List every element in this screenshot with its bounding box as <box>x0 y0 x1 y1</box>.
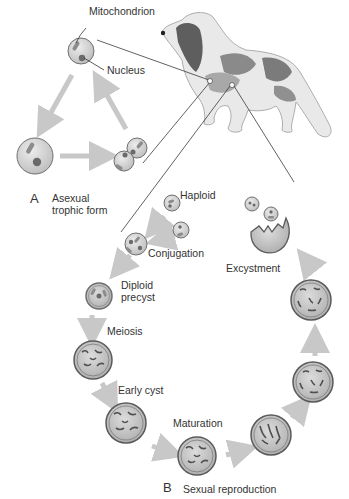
sample-site-marker <box>230 83 235 88</box>
excystment-shell <box>245 197 289 253</box>
panel-a-letter: A <box>30 191 39 206</box>
label-meiosis: Meiosis <box>107 325 143 337</box>
panel-a-title-line2: trophic form <box>52 204 107 216</box>
early-cyst <box>106 403 146 443</box>
asexual-arrows <box>44 75 126 156</box>
dividing-cells <box>114 138 147 171</box>
sample-site-marker <box>208 79 213 84</box>
early-excystment-cyst <box>291 280 331 320</box>
panel-b-letter: B <box>163 480 172 495</box>
enlarged-cell <box>17 138 53 174</box>
label-maturation: Maturation <box>173 417 223 429</box>
dog-illustration <box>161 13 331 137</box>
maturation-cyst <box>178 437 216 475</box>
conjugation-cell <box>125 233 147 255</box>
trophozoite-cell <box>68 38 94 64</box>
label-nucleus: Nucleus <box>107 64 145 76</box>
diploid-precyst <box>86 283 112 309</box>
label-diploid-line2: precyst <box>121 291 155 303</box>
pre-excystment-cyst <box>293 362 333 402</box>
panel-b-title: Sexual reproduction <box>183 483 276 495</box>
giardia-life-cycle-diagram: Mitochondrion Nucleus A Asexual trophic … <box>0 0 349 499</box>
label-excystment: Excystment <box>226 262 280 274</box>
label-diploid-line1: Diploid <box>121 279 153 291</box>
label-haploid: Haploid <box>180 189 216 201</box>
label-mitochondrion: Mitochondrion <box>89 5 155 17</box>
haploid-cells <box>164 195 189 238</box>
meiosis-cyst <box>74 341 112 379</box>
label-early-cyst: Early cyst <box>118 384 164 396</box>
panel-a-title-line1: Asexual <box>52 192 89 204</box>
label-conjugation: Conjugation <box>148 247 204 259</box>
mature-cyst <box>251 415 291 455</box>
